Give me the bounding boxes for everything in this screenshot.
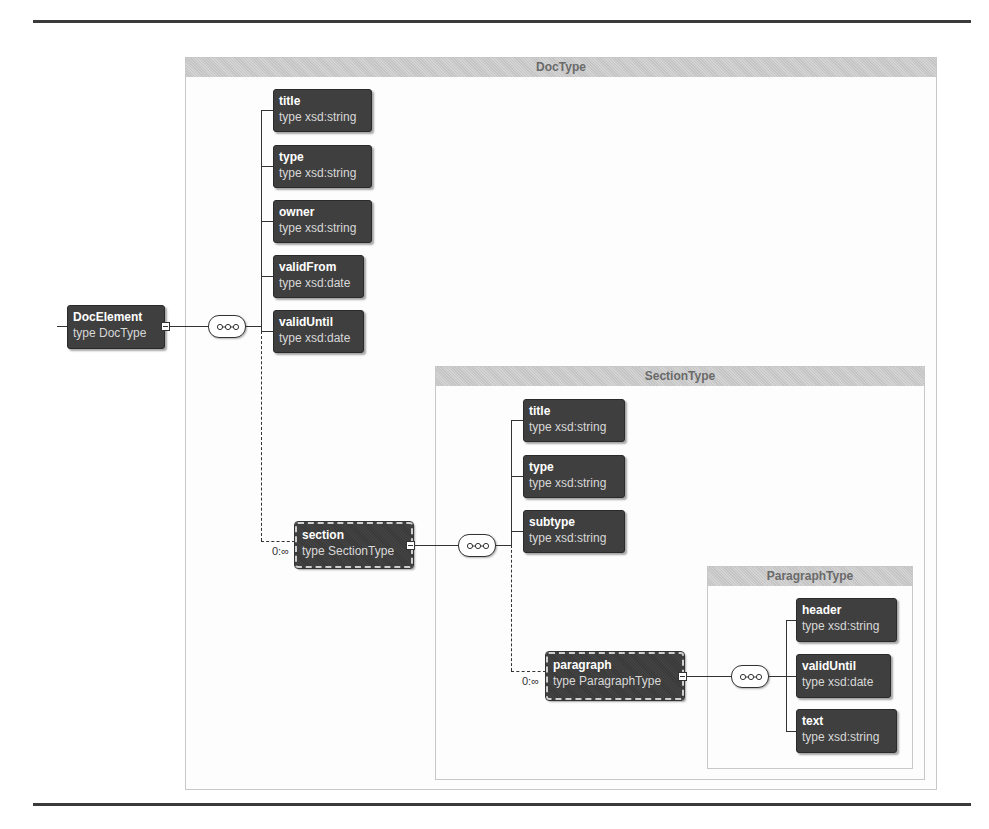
element-paragraph[interactable]: paragraph type ParagraphType (546, 652, 684, 700)
element-name: validUntil (802, 658, 885, 674)
sequence-compositor-icon[interactable] (731, 665, 769, 688)
collapse-toggle-icon[interactable] (678, 672, 687, 681)
branch-line (261, 110, 273, 111)
root-to-seq-line (170, 326, 208, 327)
element-name: header (802, 602, 891, 618)
element-type: type xsd:string (529, 475, 619, 492)
branch-line (511, 420, 523, 421)
element-name: DocElement (73, 309, 159, 325)
branch-line (261, 276, 273, 277)
element-section[interactable]: section type SectionType (295, 522, 413, 568)
element-validuntil[interactable]: validUntil type xsd:date (796, 654, 891, 698)
element-type: type xsd:date (279, 275, 358, 292)
element-name: title (279, 93, 366, 109)
branch-line (511, 531, 523, 532)
top-rule (33, 20, 971, 23)
element-type: type xsd:string (529, 530, 619, 547)
element-type: type xsd:string (529, 419, 619, 436)
section-optional-line (261, 331, 262, 541)
element-type: type ParagraphType (553, 673, 677, 690)
collapse-toggle-icon[interactable] (161, 322, 170, 331)
element-name: text (802, 713, 891, 729)
element-name: type (529, 459, 619, 475)
element-type: type xsd:string (279, 109, 366, 126)
element-type: type xsd:string (279, 220, 366, 237)
element-type[interactable]: type type xsd:string (273, 145, 372, 188)
element-name: validFrom (279, 259, 358, 275)
section-optional-branch (261, 541, 295, 542)
root-element-docelement[interactable]: DocElement type DocType (67, 305, 165, 349)
element-name: validUntil (279, 314, 358, 330)
element-name: subtype (529, 514, 619, 530)
element-text[interactable]: text type xsd:string (796, 709, 897, 753)
branch-line (786, 731, 796, 732)
sectiontype-children-line (511, 420, 512, 545)
branch-line (261, 331, 273, 332)
element-type[interactable]: type type xsd:string (523, 455, 625, 498)
section-to-seq-line (415, 545, 458, 546)
element-type: type DocType (73, 325, 159, 342)
element-type: type xsd:string (802, 729, 891, 746)
doctype-header: DocType (186, 58, 936, 77)
element-name: owner (279, 204, 366, 220)
element-title[interactable]: title type xsd:string (523, 399, 625, 442)
branch-line (786, 676, 796, 677)
element-name: type (279, 149, 366, 165)
element-name: paragraph (553, 657, 677, 673)
sectiontype-header: SectionType (436, 367, 924, 386)
element-type: type SectionType (302, 543, 406, 560)
element-name: title (529, 403, 619, 419)
element-type: type xsd:string (279, 165, 366, 182)
element-validuntil[interactable]: validUntil type xsd:date (273, 310, 364, 353)
element-type: type xsd:string (802, 618, 891, 635)
sequence-compositor-icon[interactable] (458, 534, 496, 557)
root-stub-line (57, 326, 67, 327)
branch-line (261, 166, 273, 167)
paragraph-optional-branch (511, 671, 546, 672)
element-title[interactable]: title type xsd:string (273, 89, 372, 132)
paragraph-cardinality: 0:∞ (522, 675, 539, 687)
element-name: section (302, 527, 406, 543)
element-type: type xsd:date (802, 674, 885, 691)
paragraph-to-seq-line (687, 676, 731, 677)
paragraphtype-header: ParagraphType (708, 567, 912, 586)
section-cardinality: 0:∞ (272, 545, 289, 557)
bottom-rule (33, 803, 971, 806)
element-owner[interactable]: owner type xsd:string (273, 200, 372, 243)
branch-line (786, 620, 796, 621)
branch-line (261, 221, 273, 222)
branch-line (511, 476, 523, 477)
sequence-compositor-icon[interactable] (208, 315, 246, 338)
seq-to-children-line (769, 676, 786, 677)
element-validfrom[interactable]: validFrom type xsd:date (273, 255, 364, 298)
paragraph-optional-line (511, 545, 512, 671)
seq-to-children-line (244, 326, 261, 327)
seq-to-children-line (496, 545, 511, 546)
element-type: type xsd:date (279, 330, 358, 347)
element-header[interactable]: header type xsd:string (796, 598, 897, 642)
element-subtype[interactable]: subtype type xsd:string (523, 510, 625, 553)
collapse-toggle-icon[interactable] (406, 541, 415, 550)
